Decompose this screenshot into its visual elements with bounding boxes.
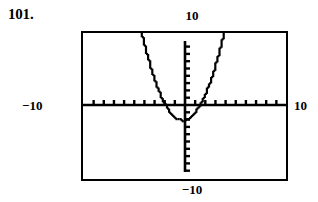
window-label-left: −10 <box>22 98 42 114</box>
graph-exercise-figure: 101. 10 −10 10 −10 <box>0 0 318 202</box>
window-label-right: 10 <box>294 98 307 114</box>
calculator-viewport <box>81 31 288 181</box>
window-label-top: 10 <box>0 8 318 24</box>
window-label-bottom: −10 <box>0 182 318 198</box>
parabola-curve <box>133 33 232 121</box>
y-axis-group <box>184 41 190 172</box>
plot-area <box>83 33 286 179</box>
